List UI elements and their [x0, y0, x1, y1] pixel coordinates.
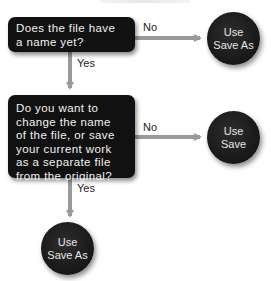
outcome-line: Save: [221, 138, 246, 151]
edge-label-no-1: No: [143, 21, 157, 33]
outcome-use-save: Use Save: [207, 111, 260, 164]
decision-line: your current work: [16, 143, 127, 157]
decision-line: change the name: [16, 116, 127, 130]
outcome-line: Save As: [47, 249, 87, 262]
edge-label-yes-1: Yes: [77, 57, 95, 69]
decision-line: as a separate file: [16, 156, 127, 170]
outcome-use-save-as-1: Use Save As: [207, 12, 260, 65]
decision-line: Does the file have: [16, 22, 127, 36]
outcome-line: Save As: [213, 39, 253, 52]
outcome-line: Use: [58, 236, 78, 249]
decision-line: from the original?: [16, 170, 127, 184]
outcome-line: Use: [224, 26, 244, 39]
edge-label-no-2: No: [143, 121, 157, 133]
decision-line: Do you want to: [16, 102, 127, 116]
decision-line: a name yet?: [16, 36, 127, 50]
outcome-line: Use: [224, 125, 244, 138]
decision-change-name: Do you want to change the name of the fi…: [8, 95, 135, 178]
decision-line: of the file, or save: [16, 129, 127, 143]
decision-has-name: Does the file have a name yet?: [8, 17, 135, 52]
edge-label-yes-2: Yes: [77, 182, 95, 194]
outcome-use-save-as-2: Use Save As: [41, 222, 94, 275]
